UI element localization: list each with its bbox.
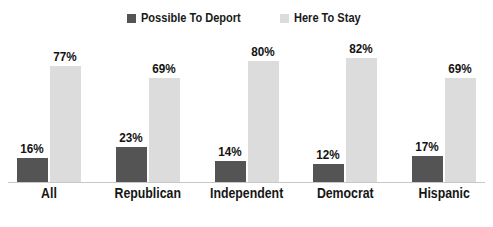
bar-value-label: 12% (317, 148, 340, 162)
bar-rect-possible-to-deport (17, 158, 48, 182)
bar-item: 12% (313, 30, 344, 182)
bar-item: 23% (116, 30, 147, 182)
bar-value-label: 82% (350, 42, 373, 56)
bar-group: 17% 69% Hispanic (397, 30, 491, 227)
bar-group: 14% 80% Independent (200, 30, 294, 227)
bar-pair: 16% 77% (2, 30, 96, 182)
bar-value-label: 80% (252, 45, 275, 59)
bar-rect-possible-to-deport (215, 161, 246, 182)
bar-value-label: 17% (416, 140, 439, 154)
bar-item: 14% (215, 30, 246, 182)
grouped-bar-chart: Possible To Deport Here To Stay 16% 77% … (0, 0, 493, 227)
bar-item: 77% (50, 30, 81, 182)
bar-rect-here-to-stay (346, 58, 377, 182)
category-label: Hispanic (397, 185, 491, 201)
bar-group: 23% 69% Republican (101, 30, 195, 227)
bar-group: 12% 82% Democrat (298, 30, 392, 227)
category-label-text: Independent (210, 185, 283, 201)
bar-value-label: 16% (21, 142, 44, 156)
bar-rect-possible-to-deport (116, 147, 147, 182)
category-label-text: Hispanic (418, 185, 469, 201)
plot-area: 16% 77% All 23% 69% (0, 0, 493, 227)
bar-group: 16% 77% All (2, 30, 96, 227)
bar-item: 69% (445, 30, 476, 182)
category-label-text: Republican (115, 185, 181, 201)
category-label: All (2, 185, 96, 201)
bar-item: 80% (248, 30, 279, 182)
bar-rect-here-to-stay (248, 61, 279, 182)
bar-rect-here-to-stay (50, 66, 81, 182)
bar-value-label: 69% (449, 62, 472, 76)
bar-pair: 17% 69% (397, 30, 491, 182)
category-label: Republican (101, 185, 195, 201)
bar-value-label: 23% (120, 131, 143, 145)
bar-item: 69% (149, 30, 180, 182)
bar-pair: 12% 82% (298, 30, 392, 182)
category-label: Democrat (298, 185, 392, 201)
category-label: Independent (200, 185, 294, 201)
bar-rect-possible-to-deport (412, 156, 443, 182)
bar-item: 16% (17, 30, 48, 182)
bar-value-label: 69% (153, 62, 176, 76)
bar-value-label: 77% (54, 50, 77, 64)
category-label-text: All (41, 185, 57, 201)
bar-pair: 14% 80% (200, 30, 294, 182)
bar-rect-possible-to-deport (313, 164, 344, 182)
bar-item: 17% (412, 30, 443, 182)
category-label-text: Democrat (317, 185, 374, 201)
bar-rect-here-to-stay (149, 78, 180, 182)
bar-item: 82% (346, 30, 377, 182)
bar-rect-here-to-stay (445, 78, 476, 182)
bar-value-label: 14% (219, 145, 242, 159)
bar-pair: 23% 69% (101, 30, 195, 182)
